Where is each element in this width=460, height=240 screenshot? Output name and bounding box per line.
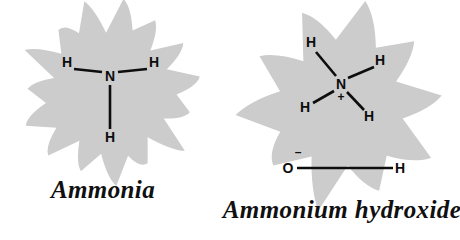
bond-n-h-lower-right [347,92,364,110]
bond-n-h-top [316,52,336,76]
atom-hydrogen-right: H [375,53,385,67]
diagram-canvas: N H H H N H H H H O H + – Ammonia Ammoni… [0,0,460,240]
atom-oxygen-hydroxide: O [283,161,294,175]
bond-n-h-right [348,67,374,78]
atom-hydrogen-top: H [306,35,316,49]
ammonia-bond-lines [0,0,230,200]
ammonium-hydroxide-bond-lines [230,0,460,215]
caption-ammonia: Ammonia [51,176,155,204]
atom-hydrogen-lower-right: H [364,109,374,123]
caption-ammonium-hydroxide: Ammonium hydroxide [223,196,460,224]
atom-hydrogen-upper-left: H [62,55,72,69]
bond-n-h-upper-left [74,69,102,72]
atom-hydrogen-upper-right: H [149,55,159,69]
bond-n-h-upper-right [118,69,147,72]
figure-ammonia: N H H H [0,0,230,240]
atom-nitrogen-center: N [105,69,115,83]
atom-hydrogen-hydroxide: H [395,161,405,175]
positive-charge-nitrogen: + [337,91,344,103]
atom-hydrogen-bottom: H [105,130,115,144]
atom-nitrogen-center: N [336,77,346,91]
negative-charge-oxygen: – [295,146,302,158]
bond-n-h-lower-left [313,91,334,103]
atom-hydrogen-lower-left: H [300,100,310,114]
